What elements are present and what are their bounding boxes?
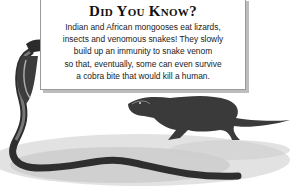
did-you-know-box: Did You Know? Indian and African mongoos…	[40, 0, 246, 90]
box-body: Indian and African mongooses eat lizards…	[41, 21, 245, 82]
body-line: a cobra bite that would kill a human.	[41, 70, 245, 82]
body-line: insects and venomous snakes! They slowly	[41, 33, 245, 45]
box-title: Did You Know?	[41, 3, 245, 19]
body-line: so that, eventually, some can even survi…	[41, 58, 245, 70]
body-line: Indian and African mongooses eat lizards…	[41, 21, 245, 33]
mongoose	[128, 96, 290, 140]
ground	[0, 134, 290, 186]
body-line: build up an immunity to snake venom	[41, 45, 245, 57]
illustration-scene: Did You Know? Indian and African mongoos…	[0, 0, 296, 191]
